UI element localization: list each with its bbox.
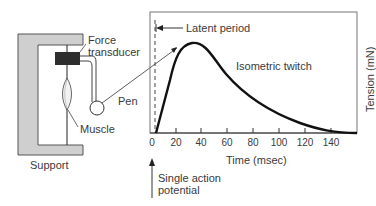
- x-tick-100: 100: [271, 137, 288, 148]
- x-tick-0: 0: [149, 137, 155, 148]
- x-tick-140: 140: [323, 137, 340, 148]
- stimulus-label-2: potential: [158, 184, 200, 196]
- x-tick-40: 40: [195, 137, 206, 148]
- muscle-twitch-diagram: Force transducer Muscle Pen Support Late…: [0, 0, 376, 206]
- stimulus-label-1: Single action: [158, 172, 221, 184]
- force-transducer-label-1: Force: [88, 34, 116, 46]
- transducer-cable: [80, 56, 96, 102]
- latent-arrow-head: [156, 25, 163, 31]
- pen-label: Pen: [118, 95, 138, 107]
- force-transducer-box: [55, 52, 80, 65]
- muscle-shape: [63, 78, 72, 110]
- x-axis-ticks: [176, 128, 331, 133]
- muscle-label: Muscle: [80, 123, 115, 135]
- pen-circle: [90, 101, 104, 115]
- x-tick-80: 80: [247, 137, 258, 148]
- x-tick-60: 60: [221, 137, 232, 148]
- isometric-twitch-curve: [156, 43, 357, 133]
- x-tick-20: 20: [170, 137, 181, 148]
- latent-period-label: Latent period: [186, 22, 250, 34]
- chart-frame: [150, 12, 357, 133]
- force-transducer-label-2: transducer: [88, 46, 140, 58]
- isometric-twitch-label: Isometric twitch: [236, 60, 312, 72]
- x-tick-120: 120: [297, 137, 314, 148]
- x-axis-label: Time (msec): [226, 154, 287, 166]
- y-axis-label: Tension (mN): [364, 47, 376, 112]
- support-label: Support: [30, 159, 69, 171]
